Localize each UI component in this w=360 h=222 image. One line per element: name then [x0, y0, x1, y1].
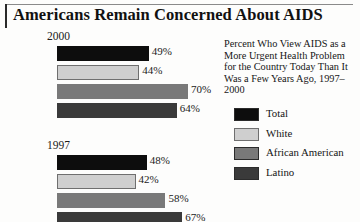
bar-total [57, 46, 149, 61]
legend-item: Total [234, 107, 360, 127]
bar-value-label: 58% [165, 192, 188, 204]
bar-african-american [57, 84, 188, 99]
bar-value-label: 67% [182, 211, 205, 222]
title-left-rule [5, 4, 7, 28]
legend-item: African American [234, 146, 360, 166]
right-panel: Percent Who View AIDS as a More Urgent H… [224, 38, 360, 96]
title-band: Americans Remain Concerned About AIDS [5, 4, 355, 28]
legend-label: African American [266, 146, 344, 158]
bar-value-label: 48% [147, 154, 170, 166]
panel-caption: Percent Who View AIDS as a More Urgent H… [224, 38, 356, 96]
legend-swatch-icon [234, 108, 259, 121]
legend-swatch-icon [234, 167, 259, 180]
bar-white [57, 174, 136, 189]
bar-african-american [57, 193, 165, 208]
bar-value-label: 42% [136, 173, 159, 185]
group-label-1997: 1997 [47, 139, 70, 151]
bar-value-label: 44% [139, 64, 162, 76]
chart-legend: TotalWhiteAfrican AmericanLatino [234, 107, 360, 185]
group-label-2000: 2000 [47, 30, 70, 42]
chart-figure: Americans Remain Concerned About AIDS 20… [0, 0, 360, 222]
legend-label: White [266, 127, 292, 139]
bar-value-label: 49% [149, 45, 172, 57]
bar-latino [57, 212, 182, 222]
bar-total [57, 155, 147, 170]
legend-item: White [234, 127, 360, 147]
chart-title: Americans Remain Concerned About AIDS [13, 5, 323, 25]
legend-item: Latino [234, 166, 360, 186]
plot-area: 200049%44%70%64%199748%42%58%67% [0, 30, 200, 220]
legend-label: Total [266, 107, 288, 119]
bar-white [57, 65, 139, 80]
bar-latino [57, 103, 177, 118]
bar-value-label: 70% [188, 83, 211, 95]
legend-swatch-icon [234, 147, 259, 160]
legend-swatch-icon [234, 128, 259, 141]
bar-value-label: 64% [177, 102, 200, 114]
legend-label: Latino [266, 166, 294, 178]
